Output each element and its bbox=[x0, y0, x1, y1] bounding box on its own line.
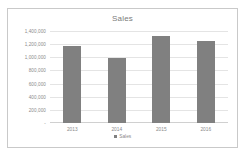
bar-group: 2014 bbox=[95, 31, 140, 123]
y-axis-tick-label: 1,000,000 bbox=[25, 55, 46, 60]
bar-group: 2013 bbox=[50, 31, 95, 123]
y-axis-tick-label: - bbox=[44, 121, 46, 126]
chart-container: Sales 1,400,0001,200,0001,000,000800,000… bbox=[7, 8, 238, 148]
chart-legend: Sales bbox=[8, 134, 237, 139]
bar-2014[interactable] bbox=[108, 58, 126, 123]
chart-title: Sales bbox=[8, 14, 237, 23]
y-axis-tick-label: 400,000 bbox=[29, 94, 46, 99]
y-axis-tick-label: 800,000 bbox=[29, 68, 46, 73]
x-axis-tick-label: 2013 bbox=[50, 127, 95, 132]
bar-2016[interactable] bbox=[197, 41, 215, 123]
x-axis-tick-label: 2014 bbox=[95, 127, 140, 132]
x-axis-tick-label: 2016 bbox=[184, 127, 229, 132]
bar-2013[interactable] bbox=[63, 46, 81, 123]
bar-2015[interactable] bbox=[152, 36, 170, 123]
y-axis-tick-label: 1,200,000 bbox=[25, 42, 46, 47]
x-axis-tick-label: 2015 bbox=[139, 127, 184, 132]
plot-area: 1,400,0001,200,0001,000,000800,000600,00… bbox=[50, 31, 228, 123]
bar-group: 2015 bbox=[139, 31, 184, 123]
y-axis-tick-label: 200,000 bbox=[29, 107, 46, 112]
legend-label-sales: Sales bbox=[119, 134, 131, 139]
y-axis-tick-label: 1,400,000 bbox=[25, 29, 46, 34]
bar-series-sales: 2013201420152016 bbox=[50, 31, 228, 123]
y-axis-tick-label: 600,000 bbox=[29, 81, 46, 86]
legend-square-icon bbox=[114, 135, 118, 139]
bar-group: 2016 bbox=[184, 31, 229, 123]
